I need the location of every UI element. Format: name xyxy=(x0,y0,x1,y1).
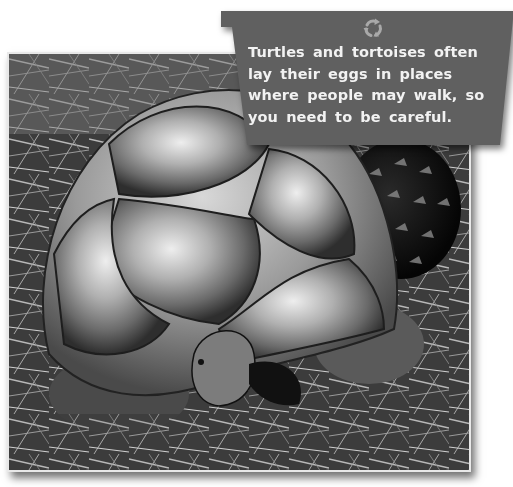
callout-text: Turtles and tortoises often lay their eg… xyxy=(248,42,510,128)
recycle-icon xyxy=(361,17,385,39)
callout-box: Turtles and tortoises often lay their eg… xyxy=(221,11,513,147)
